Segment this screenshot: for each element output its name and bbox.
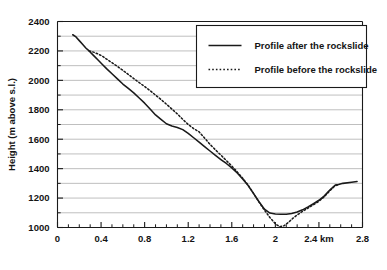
y-tick-label: 2000 [28, 75, 49, 86]
x-tick-label: 2 [273, 233, 278, 244]
y-tick-label: 1200 [28, 192, 49, 203]
chart-container: 10001200140016001800200022002400 00.40.8… [0, 0, 387, 270]
x-tick-label: 1.6 [225, 233, 238, 244]
chart-legend[interactable]: Profile after the rockslideProfile befor… [197, 26, 377, 88]
y-tick-label: 2200 [28, 45, 49, 56]
x-tick-label: 0.8 [138, 233, 151, 244]
x-tick-label: 2.8 [356, 233, 369, 244]
legend-label-2: Profile before the rockslide [255, 64, 377, 75]
y-tick-label: 1000 [28, 222, 49, 233]
profile-line-chart: 10001200140016001800200022002400 00.40.8… [0, 0, 387, 270]
x-tick-label: 1.2 [182, 233, 195, 244]
y-tick-label: 1400 [28, 163, 49, 174]
legend-label-1: Profile after the rockslide [255, 40, 369, 51]
x-tick-label: 2.4 km [304, 233, 334, 244]
y-axis-title: Height (m above s.l.) [6, 78, 17, 171]
y-tick-label: 1600 [28, 134, 49, 145]
y-tick-label: 2400 [28, 16, 49, 27]
legend-box [197, 26, 367, 88]
x-tick-label: 0 [55, 233, 60, 244]
y-tick-label: 1800 [28, 104, 49, 115]
y-axis-title-text: Height (m above s.l.) [6, 78, 17, 171]
x-tick-label: 0.4 [94, 233, 108, 244]
